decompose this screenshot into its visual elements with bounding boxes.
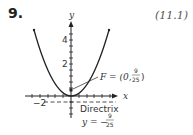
focus-close-paren: ) (141, 72, 145, 82)
tick-label-neg2: −2 (33, 98, 46, 108)
focus-label: F = (0, (99, 72, 132, 82)
directrix-denominator: 25 (106, 121, 114, 128)
directrix-numerator: 9 (108, 112, 112, 119)
x-axis-label: x (123, 91, 128, 101)
focus-denominator: 25 (132, 76, 140, 83)
parabola-end-right (108, 29, 110, 31)
tick-label-2: 2 (62, 59, 68, 69)
focus-numerator: 9 (134, 67, 138, 74)
x-axis-arrow-icon (112, 94, 118, 99)
y-axis-arrow-icon (69, 21, 74, 27)
directrix-label: Directrix (80, 104, 119, 114)
tick-label-4: 4 (62, 35, 68, 45)
parabola-graph: y x 4 2 −2 F = (0, 9 25 ) Directrix y = … (0, 0, 193, 135)
directrix-equation: y = − (81, 117, 108, 127)
parabola-end-left (33, 29, 35, 31)
y-axis-label: y (68, 10, 75, 20)
focus-point (70, 89, 73, 92)
